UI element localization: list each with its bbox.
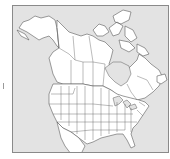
newfoundland bbox=[157, 74, 167, 84]
alaska bbox=[17, 16, 59, 48]
edge-mark bbox=[3, 83, 4, 89]
map-frame bbox=[12, 5, 169, 153]
north-america-map bbox=[13, 6, 169, 153]
